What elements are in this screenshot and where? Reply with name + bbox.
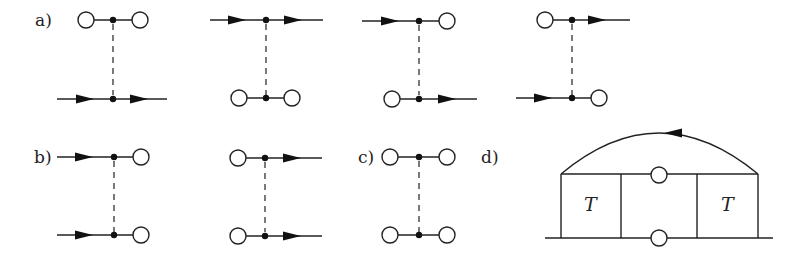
open-circle-icon <box>651 167 667 183</box>
open-circle-icon <box>439 149 455 165</box>
diagram-b1 <box>57 149 149 243</box>
vertex-dot-icon <box>111 232 117 238</box>
vertex-dot-icon <box>110 96 116 102</box>
diagram-a3 <box>362 13 477 107</box>
diagram-d1: T T <box>545 129 773 247</box>
arrow-right-icon <box>534 94 552 103</box>
vertex-dot-icon <box>111 154 117 160</box>
panel-label-c: c) <box>358 147 374 167</box>
open-circle-icon <box>439 13 455 29</box>
arrow-right-icon <box>76 95 94 104</box>
open-circle-icon <box>591 90 607 106</box>
arrow-right-icon <box>438 95 456 104</box>
diagram-a1 <box>57 12 167 104</box>
vertex-dot-icon <box>416 154 422 160</box>
open-circle-icon <box>284 90 300 106</box>
box-label-t-left: T <box>584 193 598 215</box>
panel-label-b: b) <box>34 147 52 167</box>
open-circle-icon <box>230 228 246 244</box>
panel-label-a: a) <box>35 10 52 30</box>
open-circle-icon <box>382 227 398 243</box>
open-circle-icon <box>230 150 246 166</box>
open-circle-icon <box>133 149 149 165</box>
diagram-a2 <box>210 16 323 107</box>
open-circle-icon <box>132 12 148 28</box>
open-circle-icon <box>133 227 149 243</box>
arrow-right-icon <box>284 16 302 25</box>
open-circle-icon <box>78 12 94 28</box>
arrow-right-icon <box>130 95 148 104</box>
open-circle-icon <box>231 90 247 106</box>
vertex-dot-icon <box>262 233 268 239</box>
vertex-dot-icon <box>416 18 422 24</box>
box-label-t-right: T <box>721 193 735 215</box>
vertex-dot-icon <box>263 17 269 23</box>
arrow-right-icon <box>588 16 606 25</box>
open-circle-icon <box>537 12 553 28</box>
open-circle-icon <box>439 227 455 243</box>
arrow-right-icon <box>381 17 399 26</box>
arrow-right-icon <box>228 16 246 25</box>
vertex-dot-icon <box>569 17 575 23</box>
diagram-c1 <box>382 149 455 243</box>
vertex-dot-icon <box>110 17 116 23</box>
arrow-right-icon <box>283 154 301 163</box>
open-circle-icon <box>382 149 398 165</box>
vertex-dot-icon <box>569 95 575 101</box>
arrow-left-icon <box>664 129 682 138</box>
arrow-right-icon <box>283 232 301 241</box>
panel-label-d: d) <box>481 147 499 167</box>
diagram-canvas: a) <box>0 0 800 256</box>
open-circle-icon <box>651 230 667 246</box>
vertex-dot-icon <box>416 96 422 102</box>
arrow-right-icon <box>75 153 93 162</box>
vertex-dot-icon <box>416 232 422 238</box>
diagram-a4 <box>516 12 630 106</box>
open-circle-icon <box>384 91 400 107</box>
diagram-b2 <box>230 150 322 244</box>
vertex-dot-icon <box>263 95 269 101</box>
vertex-dot-icon <box>262 155 268 161</box>
arrow-right-icon <box>75 231 93 240</box>
